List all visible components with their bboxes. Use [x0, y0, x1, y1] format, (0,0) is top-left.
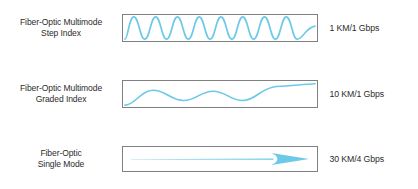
fiber-cable-box-graded-index: [122, 80, 318, 108]
low-frequency-sine-wave-icon: [123, 81, 317, 107]
fiber-row-multimode-step-index: Fiber-Optic Multimode Step Index 1 KM/1 …: [0, 14, 418, 42]
fiber-optic-comparison-diagram: Fiber-Optic Multimode Step Index 1 KM/1 …: [0, 0, 418, 189]
fiber-cable-box-step-index: [122, 14, 318, 42]
fiber-row-single-mode: Fiber-Optic Single Mode 30 KM/4 Gbps: [0, 146, 418, 172]
fiber-spec-multimode-graded-index: 10 KM/1 Gbps: [318, 89, 413, 100]
fiber-label-line-2: Single Mode: [4, 159, 117, 170]
fiber-cable-box-single-mode: [122, 146, 318, 172]
fiber-spec-single-mode: 30 KM/4 Gbps: [318, 154, 413, 165]
fiber-label-line-2: Step Index: [4, 28, 117, 39]
fiber-spec-multimode-step-index: 1 KM/1 Gbps: [318, 23, 413, 34]
fiber-label-line-2: Graded Index: [4, 94, 117, 105]
fiber-label-line-1: Fiber-Optic: [4, 148, 117, 159]
high-frequency-sine-wave-icon: [123, 15, 317, 41]
fiber-row-multimode-graded-index: Fiber-Optic Multimode Graded Index 10 KM…: [0, 80, 418, 108]
fiber-label-multimode-graded-index: Fiber-Optic Multimode Graded Index: [4, 83, 117, 106]
fiber-label-line-1: Fiber-Optic Multimode: [4, 17, 117, 28]
fiber-label-line-1: Fiber-Optic Multimode: [4, 83, 117, 94]
fiber-label-multimode-step-index: Fiber-Optic Multimode Step Index: [4, 17, 117, 40]
fiber-label-single-mode: Fiber-Optic Single Mode: [4, 148, 117, 171]
straight-arrow-icon: [123, 147, 317, 171]
